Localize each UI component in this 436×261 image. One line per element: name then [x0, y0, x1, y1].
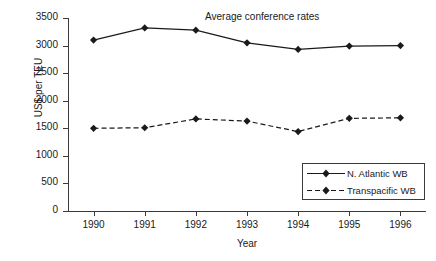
- data-point-marker: [243, 39, 250, 46]
- legend-label: N. Atlantic WB: [347, 168, 408, 179]
- data-point-marker: [397, 114, 404, 121]
- data-point-marker: [243, 118, 250, 125]
- data-point-marker: [397, 42, 404, 49]
- data-point-marker: [346, 43, 353, 50]
- chart-legend: N. Atlantic WB Transpacific WB: [302, 163, 425, 200]
- plot-area: [0, 0, 436, 261]
- legend-item-n-atlantic-wb: N. Atlantic WB: [303, 165, 426, 182]
- data-point-marker: [192, 115, 199, 122]
- legend-item-transpacific-wb: Transpacific WB: [303, 182, 426, 199]
- legend-swatch-dashed-diamond: [307, 182, 345, 199]
- data-point-marker: [346, 115, 353, 122]
- data-point-marker: [141, 124, 148, 131]
- legend-label: Transpacific WB: [347, 185, 416, 196]
- data-point-marker: [192, 27, 199, 34]
- data-point-marker: [295, 46, 302, 53]
- data-point-marker: [141, 24, 148, 31]
- data-point-marker: [295, 128, 302, 135]
- data-point-marker: [90, 36, 97, 43]
- chart-figure: Average conference rates US$ per TEU Yea…: [0, 0, 436, 261]
- legend-swatch-solid-diamond: [307, 165, 345, 182]
- data-point-marker: [90, 125, 97, 132]
